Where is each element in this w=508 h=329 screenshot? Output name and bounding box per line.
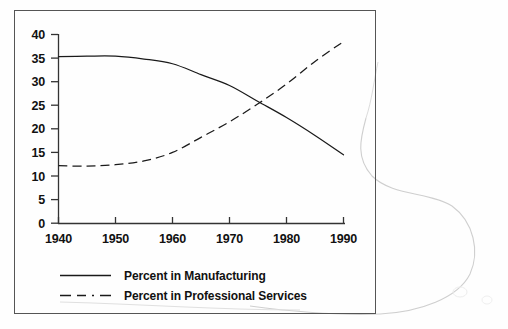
- x-tick-label-1980: 1980: [266, 232, 308, 246]
- legend-label-manufacturing: Percent in Manufacturing: [124, 269, 266, 283]
- y-tick-label-35: 35: [19, 52, 45, 66]
- y-tick-label-40: 40: [19, 28, 45, 42]
- y-tick-label-0: 0: [19, 217, 45, 231]
- x-tick-label-1990: 1990: [323, 232, 365, 246]
- y-tick-label-15: 15: [19, 146, 45, 160]
- x-tick-label-1950: 1950: [95, 232, 137, 246]
- legend-label-professional-services: Percent in Professional Services: [124, 289, 307, 303]
- y-axis-ticks: [51, 35, 58, 224]
- y-tick-label-20: 20: [19, 122, 45, 136]
- y-tick-label-10: 10: [19, 170, 45, 184]
- x-tick-label-1960: 1960: [152, 232, 194, 246]
- y-tick-label-5: 5: [19, 193, 45, 207]
- series-line-professional-services: [59, 42, 344, 167]
- x-tick-label-1970: 1970: [209, 232, 251, 246]
- series-line-manufacturing: [59, 56, 344, 155]
- y-tick-label-25: 25: [19, 99, 45, 113]
- y-tick-label-30: 30: [19, 75, 45, 89]
- x-tick-label-1940: 1940: [38, 232, 80, 246]
